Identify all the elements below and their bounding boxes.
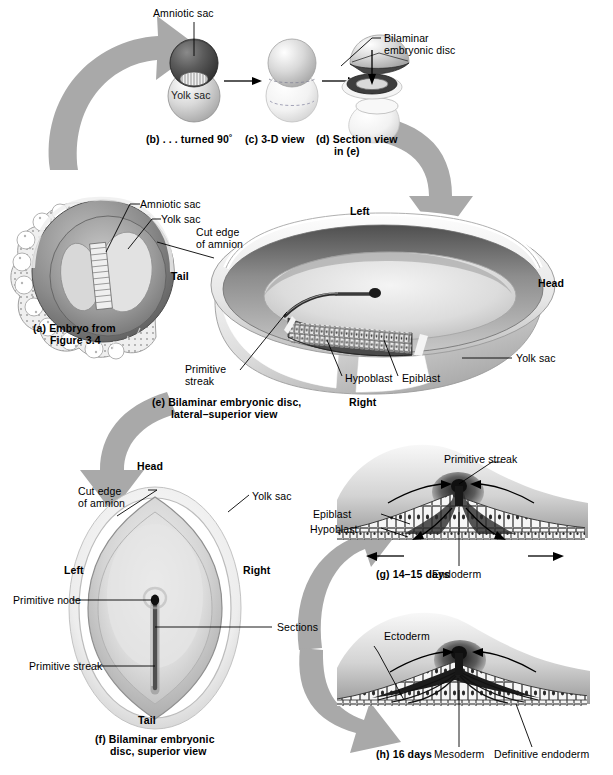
label-mesoderm-h: Mesoderm: [434, 748, 484, 760]
label-epiblast-g: Epiblast: [313, 508, 351, 520]
label-ectoderm-h: Ectoderm: [384, 630, 430, 642]
embryology-figure: Amniotic sac Yolk sac (b) . . . turned 9…: [0, 0, 613, 775]
leaders-panel-f: [0, 0, 613, 775]
label-hypoblast-g: Hypoblast: [310, 523, 358, 535]
label-definitive-endoderm-h: Definitive endoderm: [494, 748, 589, 760]
label-primitive-streak-g: Primitive streak: [444, 453, 517, 465]
caption-h: (h) 16 days: [376, 748, 432, 760]
caption-g: (g) 14–15 days: [376, 568, 450, 580]
